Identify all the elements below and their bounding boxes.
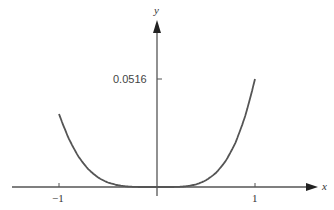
x-tick-label-neg: −1 (52, 192, 64, 204)
x-axis-arrow-icon (306, 183, 318, 191)
x-tick-label-pos: 1 (252, 192, 258, 204)
x-axis-label: x (321, 180, 327, 192)
chart-canvas: y x −1 1 0.0516 (0, 0, 334, 210)
y-axis-arrow-icon (153, 20, 161, 33)
y-tick-label: 0.0516 (113, 73, 147, 85)
y-axis-label: y (153, 4, 159, 16)
